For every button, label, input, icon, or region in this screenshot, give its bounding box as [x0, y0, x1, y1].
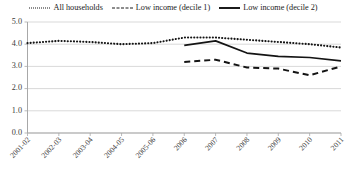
x-axis: 2001-022002-032003-042004-052005-0620062… — [8, 133, 345, 160]
x-tick-label: 2010 — [297, 135, 314, 152]
x-tick-label: 2007 — [203, 135, 220, 152]
line-chart: All households Low income (decile 1) Low… — [0, 0, 347, 176]
x-tick-label: 2009 — [266, 135, 283, 152]
x-tick-label: 2002-03 — [39, 135, 63, 160]
legend-label: Low income (decile 2) — [243, 4, 317, 12]
x-tick-label: 2004-05 — [102, 135, 126, 160]
legend-label: Low income (decile 1) — [136, 4, 210, 12]
gridlines — [28, 22, 342, 133]
x-tick-label: 2008 — [234, 135, 251, 152]
y-tick-label: 3.0 — [12, 61, 22, 70]
dashed-line-icon — [112, 4, 133, 12]
x-tick-label: 2006 — [172, 135, 189, 152]
legend-item-low-income-decile-2: Low income (decile 2) — [219, 4, 317, 12]
chart-canvas: 0.01.02.03.04.05.0 2001-022002-032003-04… — [0, 16, 347, 176]
legend-item-all-households: All households — [29, 4, 102, 12]
series-line — [28, 38, 342, 48]
chart-legend: All households Low income (decile 1) Low… — [0, 0, 347, 16]
dotted-line-icon — [29, 4, 50, 12]
x-tick-label: 2005-06 — [134, 135, 158, 160]
x-tick-label: 2003-04 — [71, 135, 95, 160]
series-line — [184, 60, 341, 76]
legend-item-low-income-decile-1: Low income (decile 1) — [112, 4, 210, 12]
legend-label: All households — [53, 4, 102, 12]
x-tick-label: 2011 — [329, 135, 346, 152]
y-tick-label: 2.0 — [12, 83, 22, 92]
y-tick-label: 4.0 — [12, 39, 22, 48]
y-tick-label: 1.0 — [12, 106, 22, 115]
x-tick-label: 2001-02 — [8, 135, 32, 160]
data-series — [28, 38, 342, 76]
plot-area: 0.01.02.03.04.05.0 2001-022002-032003-04… — [0, 16, 347, 176]
y-axis: 0.01.02.03.04.05.0 — [12, 17, 28, 137]
y-tick-label: 5.0 — [12, 17, 22, 26]
solid-line-icon — [219, 4, 240, 12]
y-tick-label: 0.0 — [12, 128, 22, 137]
